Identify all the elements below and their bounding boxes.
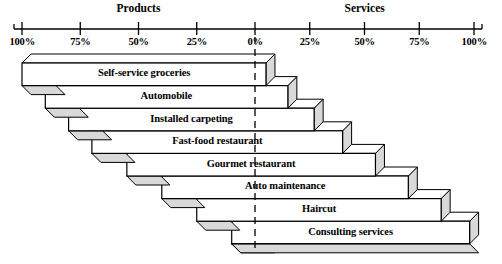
group-label-services: Services [345, 2, 385, 14]
axis-tick-services-75: 75% [409, 36, 429, 47]
axis-layer [14, 22, 482, 35]
axis-tick-products-50: 50% [129, 36, 149, 47]
axis-tick-services-50: 50% [355, 36, 375, 47]
bar-label-7: Consulting services [308, 226, 393, 237]
axis-tick-products-75: 75% [70, 36, 90, 47]
bar-label-6: Haircut [302, 203, 336, 214]
axis-tick-zero: 0% [248, 36, 263, 47]
bar-label-5: Auto maintenance [245, 180, 325, 191]
bar-label-4: Gourmet restaurant [207, 158, 296, 169]
axis-tick-services-25: 25% [300, 36, 320, 47]
axis-tick-services-100: 100% [462, 36, 487, 47]
bar-label-2: Installed carpeting [150, 113, 232, 124]
group-label-products: Products [117, 2, 161, 14]
bar-label-3: Fast-food restaurant [172, 135, 262, 146]
bar-base-plinth [232, 244, 479, 253]
bar-label-1: Automobile [141, 90, 193, 101]
axis-tick-products-100: 100% [10, 36, 35, 47]
bar-label-0: Self-service groceries [98, 67, 190, 78]
axis-tick-products-25: 25% [187, 36, 207, 47]
bars-layer [22, 54, 479, 253]
